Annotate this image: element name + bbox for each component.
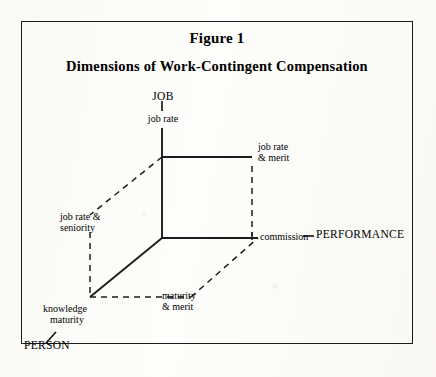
job-axis-label: JOB: [140, 91, 186, 103]
cube-edge-depth-bottom-left: [90, 238, 162, 297]
knowledge-maturity-label-line2: maturity: [50, 314, 84, 326]
job-rate-merit-label-line1: job rate: [258, 141, 288, 153]
job-rate-label: job rate: [134, 113, 192, 125]
knowledge-maturity-label-line1: knowledge: [43, 303, 87, 315]
commission-label: commission: [260, 231, 308, 243]
cube-edge-depth-bottom-right-dashed: [191, 238, 258, 297]
job-rate-seniority-label-line2: seniority: [60, 222, 95, 234]
figure-page: Figure 1 Dimensions of Work-Contingent C…: [0, 0, 436, 377]
job-rate-merit-label-line2: & merit: [258, 152, 289, 164]
performance-axis-label: PERFORMANCE: [316, 229, 404, 241]
maturity-merit-label-line2: & merit: [162, 301, 193, 313]
cube-edge-depth-top-left-dashed: [90, 157, 162, 215]
person-axis-label: PERSON: [24, 340, 70, 352]
job-rate-seniority-label-line1: job rate &: [60, 211, 101, 223]
maturity-merit-label-line1: maturity: [162, 290, 196, 302]
